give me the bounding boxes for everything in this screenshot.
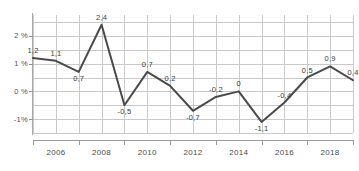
data-point-label: 0,4 <box>347 68 358 77</box>
data-point-label: 0,9 <box>325 54 336 63</box>
data-point-label: -1,1 <box>255 124 269 133</box>
data-point-label: 0,7 <box>142 60 153 69</box>
x-axis-tick-label: 2010 <box>138 148 157 157</box>
x-axis-tick-label: 2006 <box>46 148 65 157</box>
x-axis-line <box>33 140 353 141</box>
data-point-label: 1,1 <box>50 49 61 58</box>
x-axis-tick-mark <box>353 140 354 145</box>
data-point-label: 0,5 <box>302 66 313 75</box>
x-axis-tick-label: 2012 <box>184 148 203 157</box>
x-axis-tick-label: 2018 <box>321 148 340 157</box>
y-axis-tick-mark <box>29 64 33 65</box>
data-point-label: -0,7 <box>186 113 200 122</box>
data-point-label: 1,2 <box>27 46 38 55</box>
x-axis-tick-mark <box>33 140 34 145</box>
x-axis-tick-label: 2014 <box>229 148 248 157</box>
x-axis-tick-mark <box>124 140 125 145</box>
x-axis-tick-mark <box>307 140 308 145</box>
x-axis-tick-mark <box>216 140 217 145</box>
y-axis-tick-mark <box>29 91 33 92</box>
data-point-label: -0,2 <box>209 85 223 94</box>
data-point-label: -0,4 <box>278 91 292 100</box>
y-axis-tick-label: 2 % <box>2 31 28 40</box>
x-axis-tick-mark <box>79 140 80 145</box>
line-chart: 2 %1 %0 %-1% 200620082010201220142016201… <box>0 0 359 171</box>
data-point-label: 0,7 <box>73 74 84 83</box>
y-axis-tick-mark <box>29 36 33 37</box>
y-axis-tick-label: 0 % <box>2 87 28 96</box>
data-point-label: 2,4 <box>96 13 107 22</box>
data-point-label: 0,2 <box>165 74 176 83</box>
x-axis-tick-mark <box>262 140 263 145</box>
y-axis-tick-label: 1 % <box>2 59 28 68</box>
x-axis-tick-mark <box>170 140 171 145</box>
gridline-horizontal <box>33 133 353 134</box>
x-axis-tick-label: 2008 <box>92 148 111 157</box>
data-point-label: -0,5 <box>118 107 132 116</box>
data-point-label: 0 <box>237 79 241 88</box>
y-axis-tick-label: -1% <box>2 115 28 124</box>
y-axis-tick-mark <box>29 119 33 120</box>
x-axis-tick-label: 2016 <box>275 148 294 157</box>
